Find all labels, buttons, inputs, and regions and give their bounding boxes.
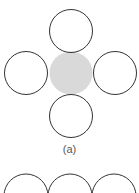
center-filled-circle <box>50 52 93 95</box>
circle-diagram <box>0 0 139 193</box>
bottom-circle <box>50 95 93 138</box>
panel-b <box>4 174 136 193</box>
top-circle <box>50 10 93 53</box>
panel-a-caption: (a) <box>0 143 139 155</box>
row-circle-1 <box>4 174 48 193</box>
panel-a <box>5 10 137 138</box>
left-circle <box>5 52 48 95</box>
row-circle-2 <box>48 174 92 193</box>
row-circle-3 <box>92 174 136 193</box>
right-circle <box>94 52 137 95</box>
